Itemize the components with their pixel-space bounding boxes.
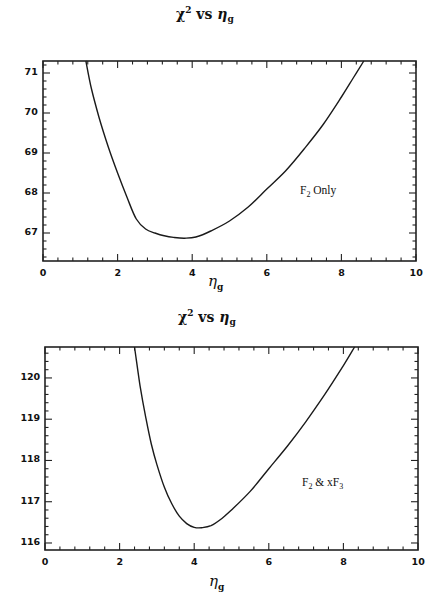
plot-area: [0, 0, 445, 300]
y-tick-label: 118: [20, 453, 40, 464]
y-tick-label: 69: [25, 146, 38, 157]
annot-sub2: 3: [339, 482, 343, 491]
x-tick-label: 4: [189, 267, 196, 278]
x-axis-label: ηg: [208, 272, 223, 292]
annot-mid: & xF: [315, 476, 339, 488]
y-tick-label: 117: [20, 495, 40, 506]
x-axis-label: ηg: [209, 572, 224, 592]
plot-frame: [45, 347, 418, 550]
y-tick-label: 67: [25, 226, 38, 237]
plot-area: [0, 300, 445, 616]
y-tick-label: 120: [20, 371, 40, 382]
xlabel-sub: g: [218, 582, 224, 592]
x-tick-label: 8: [340, 556, 347, 567]
data-curve: [86, 61, 364, 238]
x-tick-label: 2: [114, 267, 121, 278]
x-tick-label: 10: [412, 556, 425, 567]
x-tick-label: 0: [40, 267, 47, 278]
x-tick-label: 6: [266, 556, 273, 567]
series-annotation: F2 & xF3: [302, 476, 343, 491]
series-annotation: F2 Only: [300, 184, 336, 199]
data-curve: [135, 347, 355, 528]
y-tick-label: 68: [25, 186, 38, 197]
x-tick-label: 0: [42, 556, 49, 567]
xlabel-eta: η: [209, 572, 218, 590]
chart-f2-xf3: χ2 vs ηg ηg F2 & xF3 0246810116117118119…: [0, 300, 445, 616]
y-tick-label: 119: [20, 412, 40, 423]
x-tick-label: 10: [410, 267, 423, 278]
x-tick-label: 4: [191, 556, 198, 567]
plot-frame: [43, 61, 416, 261]
y-tick-label: 71: [25, 66, 38, 77]
annot-sub: 2: [306, 190, 310, 199]
chart-f2-only: χ2 vs ηg ηg F2 Only 02468106768697071: [0, 0, 445, 300]
xlabel-sub: g: [217, 282, 223, 292]
xlabel-eta: η: [208, 272, 217, 290]
annot-sub: 2: [308, 482, 312, 491]
x-tick-label: 6: [264, 267, 271, 278]
y-tick-label: 70: [25, 106, 38, 117]
y-tick-label: 116: [20, 536, 40, 547]
x-tick-label: 2: [116, 556, 123, 567]
annot-rest: Only: [313, 184, 336, 196]
x-tick-label: 8: [338, 267, 345, 278]
